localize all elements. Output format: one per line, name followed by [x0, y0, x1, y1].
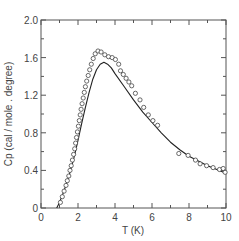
y-tick-label: 1.6: [24, 53, 38, 64]
data-point-circle: [67, 174, 71, 178]
data-point-circle: [142, 105, 146, 109]
data-point-circle: [223, 170, 227, 174]
data-point-circle: [193, 158, 197, 162]
data-point-circle: [83, 85, 87, 89]
x-axis-label: T (K): [122, 225, 144, 236]
measured-data-points: [58, 49, 227, 205]
y-tick-label: 2.0: [24, 15, 38, 26]
data-point-circle: [70, 158, 74, 162]
data-point-circle: [76, 124, 80, 128]
x-tick-label: 0: [38, 212, 44, 223]
data-point-circle: [177, 151, 181, 155]
x-tick-label: 10: [220, 212, 232, 223]
data-point-circle: [88, 68, 92, 72]
data-point-circle: [186, 153, 190, 157]
data-point-circle: [121, 72, 125, 76]
data-point-circle: [60, 195, 64, 199]
y-tick-label: 0: [32, 203, 38, 214]
data-point-circle: [68, 168, 72, 172]
theory-line-path: [57, 62, 226, 208]
data-point-circle: [74, 141, 78, 145]
data-point-circle: [81, 96, 85, 100]
data-point-circle: [133, 91, 137, 95]
data-point-circle: [205, 164, 209, 168]
data-point-circle: [211, 166, 215, 170]
data-point-circle: [77, 119, 81, 123]
data-point-circle: [156, 123, 160, 127]
data-point-circle: [124, 76, 128, 80]
x-tick-label: 6: [149, 212, 155, 223]
data-point-circle: [130, 84, 134, 88]
y-axis-ticks: 00.40.81.21.62.0: [24, 15, 226, 214]
data-point-circle: [118, 69, 122, 73]
data-point-circle: [151, 119, 155, 123]
data-point-circle: [86, 73, 90, 77]
data-point-circle: [75, 130, 79, 134]
x-tick-label: 2: [75, 212, 81, 223]
data-point-circle: [62, 189, 66, 193]
data-point-circle: [65, 179, 69, 183]
x-tick-label: 4: [112, 212, 118, 223]
y-tick-label: 1.2: [24, 90, 38, 101]
x-axis-ticks: 0246810: [38, 20, 232, 223]
x-tick-label: 8: [186, 212, 192, 223]
data-point-circle: [69, 164, 73, 168]
data-point-circle: [74, 135, 78, 139]
data-point-circle: [64, 183, 68, 187]
data-point-circle: [113, 57, 117, 61]
data-point-circle: [146, 113, 150, 117]
data-point-circle: [85, 79, 89, 83]
data-point-circle: [73, 147, 77, 151]
data-point-circle: [80, 102, 84, 106]
data-point-circle: [72, 152, 76, 156]
data-point-circle: [78, 113, 82, 117]
data-point-circle: [127, 80, 131, 84]
data-point-circle: [91, 56, 95, 60]
data-point-circle: [58, 200, 62, 204]
y-tick-label: 0.8: [24, 128, 38, 139]
data-point-circle: [138, 98, 142, 102]
y-axis-label: Cp (cal / mole . degree): [3, 62, 14, 167]
data-point-circle: [89, 62, 93, 66]
data-point-circle: [79, 107, 83, 111]
data-point-circle: [99, 50, 103, 54]
data-point-circle: [198, 162, 202, 166]
data-point-circle: [117, 62, 121, 66]
theory-curve: [57, 62, 226, 208]
data-point-circle: [82, 90, 86, 94]
chart: 0246810 00.40.81.21.62.0 T (K) Cp (cal /…: [0, 0, 239, 241]
y-tick-label: 0.4: [24, 165, 38, 176]
